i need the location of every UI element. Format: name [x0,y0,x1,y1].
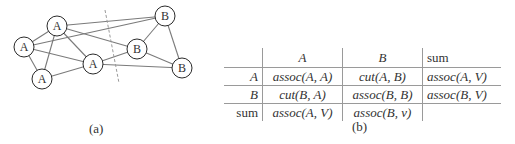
node-A3: A [32,69,52,89]
table-header-row: A B sum [224,48,501,68]
header-corner [224,48,263,68]
node-label: B [133,42,141,56]
caption-a: (a) [89,121,103,137]
node-B1: B [155,6,175,26]
table-cell: assoc(B, B) [343,86,423,104]
node-B3: B [172,58,192,78]
node-A4: A [83,54,103,74]
table-cell: assoc(B, V) [423,86,502,104]
cut-assoc-table: A B sum A assoc(A, A) cut(A, B) assoc(A,… [224,48,501,121]
table-cell: assoc(A, A) [263,68,343,86]
table-cell: assoc(A, V) [263,104,343,122]
table-cell: cut(A, B) [343,68,423,86]
node-A2: A [14,37,34,57]
table-row-b: B cut(B, A) assoc(B, B) assoc(B, V) [224,86,501,104]
edge-A1-B1 [57,16,165,26]
row-label: A [224,68,263,86]
edge-A4-B3 [93,64,182,68]
edge-A2-A4 [24,47,93,64]
table-cell: assoc(A, V) [423,68,502,86]
header-col-b: B [343,48,423,68]
row-label: B [224,86,263,104]
table-cell: cut(B, A) [263,86,343,104]
node-B2: B [127,39,147,59]
graph-nodes: AAAABBB [14,6,192,89]
row-label: sum [224,104,263,122]
table-row-a: A assoc(A, A) cut(A, B) assoc(A, V) [224,68,501,86]
table-cell-empty [423,104,502,122]
graph-diagram: AAAABBB [0,0,230,144]
node-label: B [178,61,186,75]
node-label: A [89,57,98,71]
node-label: A [38,72,47,86]
node-label: A [53,19,62,33]
node-A1: A [47,16,67,36]
header-col-a: A [263,48,343,68]
node-label: B [161,9,169,23]
node-label: A [20,40,29,54]
caption-b: (b) [352,119,367,135]
header-col-sum: sum [423,48,502,68]
